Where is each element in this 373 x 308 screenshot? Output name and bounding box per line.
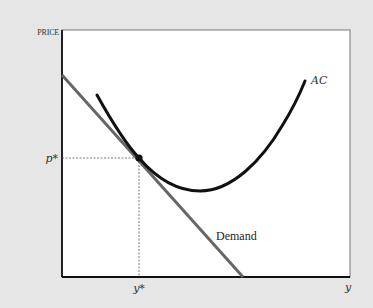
- p-star-label: p*: [45, 152, 58, 165]
- y-axis-label: PRICE: [37, 28, 59, 37]
- ac-label: AC: [310, 74, 328, 87]
- demand-label: Demand: [216, 229, 257, 243]
- x-axis-label: y: [344, 281, 352, 294]
- y-star-label: y*: [132, 282, 145, 295]
- average-cost-demand-diagram: PRICE p* y* y AC Demand: [0, 0, 373, 308]
- plot-area: [62, 30, 350, 277]
- tangency-point: [135, 154, 142, 161]
